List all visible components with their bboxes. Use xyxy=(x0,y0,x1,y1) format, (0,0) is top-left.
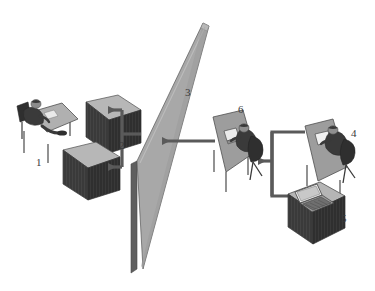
laptop-on-box xyxy=(288,182,345,244)
isometric-scene xyxy=(0,0,375,291)
diagram-label-2: 2 xyxy=(119,140,125,151)
diagram-label-5: 5 xyxy=(341,213,347,224)
connector-right-to-desk6 xyxy=(258,132,305,196)
diagram-label-6: 6 xyxy=(238,104,244,115)
worker-desk-middle xyxy=(213,110,263,192)
diagram-label-4: 4 xyxy=(351,128,357,139)
barrier-wall xyxy=(131,23,209,273)
diagram-canvas: 1 2 3 4 5 6 xyxy=(0,0,375,291)
diagram-label-1: 1 xyxy=(36,157,42,168)
diagram-label-3: 3 xyxy=(185,87,191,98)
